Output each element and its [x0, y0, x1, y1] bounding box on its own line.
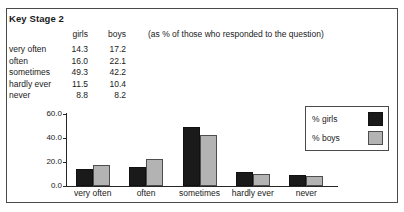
bar-boys: [200, 135, 217, 186]
figure: Key Stage 2 girls boys (as % of those wh…: [0, 0, 404, 212]
y-axis-tick-mark: [63, 186, 67, 187]
table-column-header-boys: boys: [96, 29, 126, 39]
table-cell-boys: 42.2: [96, 67, 126, 77]
table-row-label: never: [9, 90, 30, 100]
bar-girls: [129, 167, 146, 186]
plot-area: [66, 114, 333, 186]
bar-girls: [236, 172, 253, 186]
table-row: never8.88.2: [9, 90, 134, 102]
x-axis-label: often: [119, 188, 172, 198]
table-cell-girls: 16.0: [58, 56, 88, 66]
table-cell-boys: 22.1: [96, 56, 126, 66]
table-column-header-girls: girls: [58, 29, 88, 39]
x-axis-line: [66, 186, 338, 187]
table-cell-girls: 11.5: [58, 79, 88, 89]
table-row: hardly ever11.510.4: [9, 79, 134, 91]
legend-item: % girls: [312, 111, 384, 129]
bar-boys: [93, 165, 110, 186]
page-title: Key Stage 2: [9, 13, 64, 24]
table-cell-boys: 10.4: [96, 79, 126, 89]
legend-swatch: [368, 112, 383, 126]
x-axis-label: sometimes: [173, 188, 226, 198]
bar-chart: 0.020.040.060.0 very oftenoftensometimes…: [30, 104, 350, 204]
table-row: very often14.317.2: [9, 44, 134, 56]
y-axis-tick-label: 40.0: [30, 133, 62, 142]
x-axis-label: hardly ever: [226, 188, 279, 198]
y-axis-tick-label: 0.0: [30, 181, 62, 190]
legend-swatch: [368, 131, 383, 145]
data-table: very often14.317.2often16.022.1sometimes…: [9, 44, 134, 102]
bar-girls: [183, 127, 200, 186]
table-row-label: very often: [9, 44, 46, 54]
table-row-label: sometimes: [9, 67, 50, 77]
table-row-label: hardly ever: [9, 79, 51, 89]
bar-boys: [146, 159, 163, 186]
bar-girls: [289, 175, 306, 186]
bar-girls: [76, 169, 93, 186]
x-axis-label: never: [280, 188, 333, 198]
y-axis-tick-label: 20.0: [30, 157, 62, 166]
legend-label: % girls: [312, 114, 338, 124]
bar-boys: [253, 174, 270, 186]
legend-item: % boys: [312, 130, 384, 148]
table-cell-girls: 14.3: [58, 44, 88, 54]
table-row: often16.022.1: [9, 56, 134, 68]
bar-boys: [306, 176, 323, 186]
chart-note: (as % of those who responded to the ques…: [148, 29, 324, 39]
table-cell-girls: 49.3: [58, 67, 88, 77]
y-axis-tick-label: 60.0: [30, 109, 62, 118]
chart-legend: % girls% boys: [305, 106, 389, 151]
table-cell-boys: 8.2: [96, 90, 126, 100]
x-axis-label: very often: [66, 188, 119, 198]
legend-label: % boys: [312, 133, 340, 143]
table-row: sometimes49.342.2: [9, 67, 134, 79]
table-cell-boys: 17.2: [96, 44, 126, 54]
table-row-label: often: [9, 56, 28, 66]
table-cell-girls: 8.8: [58, 90, 88, 100]
